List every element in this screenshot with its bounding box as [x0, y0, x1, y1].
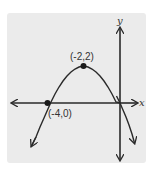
vertex-point — [81, 63, 87, 69]
x-axis-label: x — [139, 97, 145, 108]
parabola-graph: x y (-2,2) (-4,0) — [0, 0, 151, 170]
root-label: (-4,0) — [48, 108, 72, 119]
root-point — [45, 100, 51, 106]
parabola-line — [31, 66, 120, 147]
parabola-left-tail — [32, 137, 37, 146]
y-axis-label: y — [116, 15, 123, 26]
vertex-label: (-2,2) — [70, 51, 94, 62]
